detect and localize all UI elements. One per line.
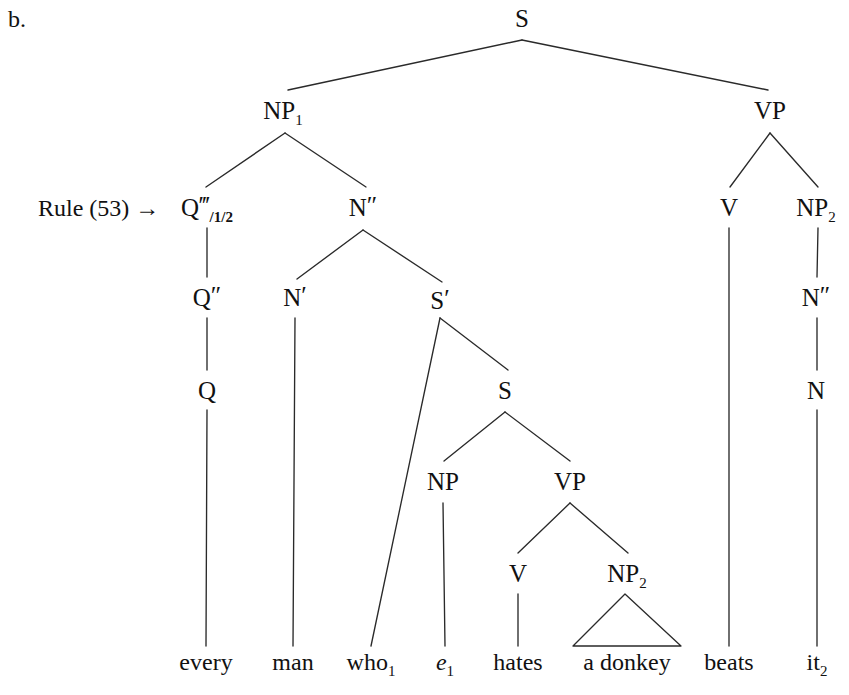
syntax-tree-figure: SNP1VPQ‴/1/2N″VNP2Q″N′S′N″QSNNPVPVNP2 ev… — [0, 0, 849, 695]
tree-nodes-group: SNP1VPQ‴/1/2N″VNP2Q″N′S′N″QSNNPVPVNP2 — [181, 5, 836, 591]
tree-node-S_emb: S — [498, 377, 512, 404]
tree-node-NP1: NP1 — [263, 97, 302, 128]
terminal-word-it2: it2 — [807, 649, 828, 679]
tree-branch-S-to-NP1 — [288, 40, 522, 90]
tree-terminals-group: everymanwho1e1hatesa donkeybeatsit2 — [179, 649, 827, 679]
tree-branch-N1-to-man — [293, 318, 295, 646]
tree-branch-NP_emb-to-e1 — [443, 503, 445, 646]
tree-node-N1: N′ — [283, 282, 307, 311]
tree-node-NP2_r: NP2 — [796, 194, 835, 225]
tree-branch-NP1-to-N2 — [285, 133, 366, 187]
terminal-word-e1: e1 — [436, 649, 454, 679]
tree-node-Q0: Q — [198, 377, 216, 404]
terminal-word-donkey: a donkey — [583, 649, 670, 675]
phrase-triangle-group — [573, 594, 681, 646]
item-letter-label: b. — [8, 6, 26, 32]
tree-node-N2_r: N″ — [802, 282, 830, 311]
tree-branches-group — [206, 40, 818, 646]
tree-branch-VP_emb-to-NP2_emb — [570, 503, 628, 553]
tree-node-Sbar: S′ — [430, 285, 449, 314]
terminal-word-who: who1 — [347, 649, 396, 679]
tree-branch-S-to-VP_top — [522, 40, 768, 90]
tree-node-NP_emb: NP — [427, 468, 459, 495]
tree-branch-S_emb-to-NP_emb — [444, 412, 505, 461]
terminal-word-every: every — [179, 649, 232, 675]
tree-node-V_top: V — [720, 194, 738, 221]
tree-node-NP2_emb: NP2 — [607, 560, 646, 591]
terminal-word-hates: hates — [493, 649, 542, 675]
tree-node-V_emb: V — [509, 560, 527, 587]
tree-branch-N2-to-Sbar — [363, 230, 442, 282]
tree-node-S: S — [515, 5, 529, 32]
tree-node-Q2: Q″ — [193, 282, 221, 311]
tree-branch-VP_emb-to-V_emb — [518, 503, 570, 553]
tree-node-N2: N″ — [349, 192, 377, 221]
terminal-word-beats: beats — [704, 649, 753, 675]
tree-node-VP_emb: VP — [554, 468, 586, 495]
tree-branch-VP_top-to-NP2_r — [770, 133, 818, 187]
tree-node-VP_top: VP — [754, 97, 786, 124]
tree-branch-NP2_r-to-N2_r — [817, 228, 818, 277]
tree-branch-Sbar-to-S_emb — [440, 318, 508, 370]
tree-node-N_r: N — [807, 377, 825, 404]
phrase-triangle — [573, 594, 681, 646]
syntax-tree-canvas: SNP1VPQ‴/1/2N″VNP2Q″N′S′N″QSNNPVPVNP2 ev… — [0, 0, 849, 695]
tree-node-Q3: Q‴/1/2 — [181, 192, 233, 225]
tree-branch-Q0-to-every — [206, 410, 207, 646]
tree-branch-S_emb-to-VP_emb — [505, 412, 570, 461]
tree-branch-N2-to-N1 — [297, 230, 363, 279]
terminal-word-man: man — [272, 649, 313, 675]
tree-branch-VP_top-to-V_top — [730, 133, 770, 187]
rule-annotation-label: Rule (53) → — [38, 195, 159, 221]
tree-branch-NP1-to-Q3 — [206, 133, 285, 187]
